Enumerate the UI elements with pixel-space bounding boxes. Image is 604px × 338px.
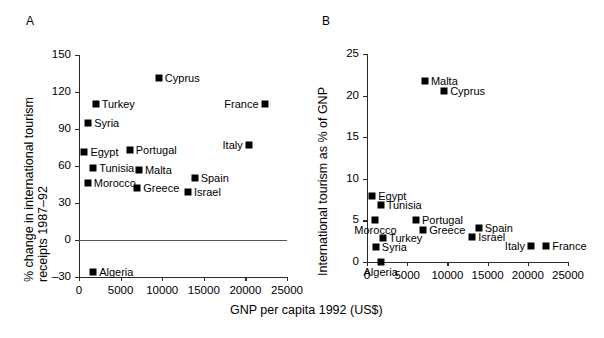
y-axis-tick [75,203,79,204]
y-axis-line [79,55,80,277]
x-axis-tick [162,277,163,281]
data-point-label: France [224,99,258,110]
y-axis-tick-label: 90 [58,123,71,135]
data-point-marker[interactable] [528,243,535,250]
zero-reference-line [79,240,287,241]
data-point-label: Tunisia [99,163,134,174]
data-point-label: Israel [194,186,221,197]
figure-container: A % change in international tourism rece… [0,0,604,338]
panel-a-y-axis-title-line1: % change in international tourism [22,97,36,282]
y-axis-tick [363,96,367,97]
data-point-marker[interactable] [369,193,376,200]
y-axis-tick [75,277,79,278]
data-point-label: Morocco [94,178,136,189]
x-axis-title: GNP per capita 1992 (US$) [230,303,383,317]
data-point-label: Cyprus [450,85,485,96]
x-axis-tick [79,277,80,281]
data-point-label: Malta [145,164,172,175]
x-axis-tick-label: 5000 [394,270,420,282]
data-point-marker[interactable] [84,180,91,187]
x-axis-tick-label: 10000 [431,270,463,282]
data-point-label: Egypt [90,147,118,158]
x-axis-line [367,262,568,263]
panel-a-label: A [26,14,34,28]
x-axis-tick-label: 5000 [108,285,134,297]
y-axis-tick [363,262,367,263]
x-axis-tick [245,277,246,281]
data-point-label: Syria [94,117,119,128]
y-axis-tick-label: –30 [52,271,71,283]
y-axis-tick [75,129,79,130]
data-point-label: Italy [505,241,525,252]
panel-b-y-axis-title: International tourism as % of GNP [316,87,330,276]
data-point-marker[interactable] [134,185,141,192]
x-axis-tick-label: 15000 [472,270,504,282]
data-point-marker[interactable] [377,258,384,265]
data-point-marker[interactable] [155,75,162,82]
data-point-label: Israel [478,232,505,243]
data-point-marker[interactable] [85,119,92,126]
x-axis-tick [568,262,569,266]
data-point-marker[interactable] [245,142,252,149]
data-point-label: Turkey [102,99,135,110]
data-point-label: Greece [143,183,179,194]
y-axis-tick [363,54,367,55]
data-point-label: Syria [382,242,407,253]
x-axis-tick-label: 20000 [512,270,544,282]
data-point-marker[interactable] [135,166,142,173]
data-point-label: Algeria [364,267,398,278]
data-point-marker[interactable] [413,217,420,224]
data-point-marker[interactable] [184,188,191,195]
y-axis-tick-label: 20 [346,90,359,102]
panel-b: B International tourism as % of GNP 0500… [300,0,604,338]
y-axis-tick [363,220,367,221]
panel-b-plot-area: 05000100001500020000250000510152025Malta… [367,54,568,262]
y-axis-tick-label: 150 [52,49,71,61]
y-axis-tick [75,166,79,167]
x-axis-tick-label: 20000 [229,285,261,297]
y-axis-tick-label: 120 [52,86,71,98]
data-point-marker[interactable] [90,269,97,276]
data-point-marker[interactable] [377,202,384,209]
data-point-marker[interactable] [421,77,428,84]
x-axis-tick-label: 15000 [188,285,220,297]
y-axis-tick-label: 60 [58,160,71,172]
data-point-marker[interactable] [372,244,379,251]
data-point-marker[interactable] [543,243,550,250]
data-point-label: Greece [429,225,465,236]
x-axis-tick [447,262,448,266]
data-point-marker[interactable] [261,101,268,108]
x-axis-tick-label: 0 [76,285,82,297]
data-point-marker[interactable] [372,217,379,224]
y-axis-tick-label: 0 [65,234,71,246]
data-point-label: Italy [223,140,243,151]
panel-b-label: B [322,14,330,28]
data-point-label: France [552,241,586,252]
x-axis-tick-label: 25000 [552,270,584,282]
x-axis-tick [488,262,489,266]
y-axis-tick [75,240,79,241]
data-point-label: Algeria [99,267,133,278]
data-point-marker[interactable] [441,87,448,94]
panel-a: A % change in international tourism rece… [0,0,304,338]
x-axis-tick-label: 25000 [271,285,303,297]
data-point-marker[interactable] [126,146,133,153]
panel-a-plot-area: 0500010000150002000025000–30030609012015… [79,55,287,277]
data-point-marker[interactable] [81,149,88,156]
y-axis-tick-label: 30 [58,197,71,209]
x-axis-tick [407,262,408,266]
data-point-label: Spain [201,173,229,184]
data-point-label: Portugal [136,144,177,155]
panel-b-y-axis-title-line1: International tourism as % of GNP [316,87,330,276]
data-point-marker[interactable] [469,234,476,241]
y-axis-tick-label: 10 [346,173,359,185]
data-point-marker[interactable] [90,165,97,172]
data-point-label: Cyprus [165,73,200,84]
data-point-marker[interactable] [92,101,99,108]
x-axis-tick [121,277,122,281]
panel-a-y-axis-title: % change in international tourism receip… [22,97,50,282]
y-axis-tick [75,92,79,93]
data-point-marker[interactable] [191,175,198,182]
y-axis-tick [363,137,367,138]
y-axis-tick [363,179,367,180]
